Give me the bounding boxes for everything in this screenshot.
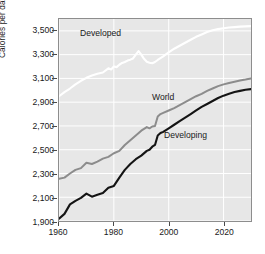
x-tick-label: 1980 [93, 228, 133, 237]
x-tick-label: 2000 [149, 228, 189, 237]
series-label-world: World [152, 93, 174, 102]
y-axis-title: Calories per day per capita [0, 0, 7, 58]
x-tick-mark [113, 222, 114, 226]
x-tick-label: 1960 [38, 228, 78, 237]
calories-line-chart: 1,9002,1002,3002,5002,7002,9003,1003,300… [0, 0, 265, 254]
series-label-developed: Developed [80, 29, 121, 38]
x-tick-mark [224, 222, 225, 226]
x-axis-tick-labels: 1960198020002020 [0, 0, 265, 254]
series-label-developing: Developing [164, 131, 207, 140]
x-tick-mark [58, 222, 59, 226]
x-tick-mark [169, 222, 170, 226]
x-tick-label: 2020 [204, 228, 244, 237]
